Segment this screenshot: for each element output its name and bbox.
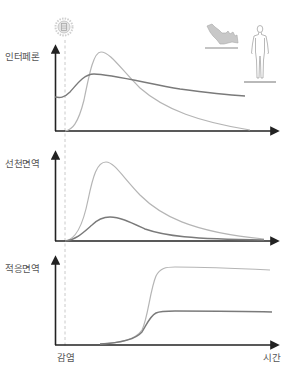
curve-bat-interferon	[55, 74, 245, 97]
panel-innate-immunity	[55, 155, 275, 241]
panel-interferon	[55, 49, 275, 131]
human-figure-icon	[244, 26, 276, 83]
x-label-infection: 감염	[57, 350, 74, 364]
curve-human-innate	[65, 162, 264, 241]
y-label-interferon: 인터페론	[5, 49, 39, 63]
bat-icon	[205, 24, 238, 48]
curve-bat-innate	[65, 217, 264, 241]
x-label-time: 시간	[263, 350, 280, 364]
y-label-innate-immunity: 선천면역	[5, 156, 39, 170]
curve-bat-adaptive	[100, 311, 272, 344]
panel-adaptive-immunity	[55, 260, 275, 345]
immune-response-diagram	[0, 0, 295, 380]
y-label-adaptive-immunity: 적응면역	[5, 261, 39, 275]
virus-icon	[56, 19, 73, 36]
curve-human-interferon	[65, 52, 250, 131]
curve-human-adaptive	[100, 267, 270, 344]
